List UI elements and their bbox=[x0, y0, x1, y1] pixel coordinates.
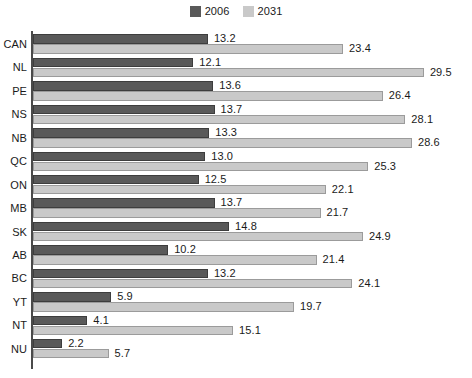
bar-pair: 10.221.4 bbox=[33, 244, 472, 267]
bar-pair: 12.522.1 bbox=[33, 174, 472, 197]
bar-2031-NS[interactable] bbox=[33, 115, 405, 124]
category-label: NL bbox=[0, 59, 27, 76]
bar-value-label: 22.1 bbox=[332, 183, 354, 196]
bar-group: MB13.721.7 bbox=[0, 197, 472, 220]
bar-track: 12.1 bbox=[33, 58, 472, 67]
bar-2006-NL[interactable] bbox=[33, 58, 193, 67]
bar-track: 12.5 bbox=[33, 175, 472, 184]
bar-value-label: 25.3 bbox=[374, 160, 396, 173]
bar-track: 26.4 bbox=[33, 91, 472, 100]
legend-entry-2031: 2031 bbox=[243, 6, 283, 17]
bar-pair: 2.25.7 bbox=[33, 338, 472, 361]
bar-2031-SK[interactable] bbox=[33, 232, 363, 241]
bar-2006-NU[interactable] bbox=[33, 339, 62, 348]
bar-track: 2.2 bbox=[33, 339, 472, 348]
bar-pair: 13.025.3 bbox=[33, 150, 472, 173]
category-label: NS bbox=[0, 106, 27, 123]
bar-track: 24.1 bbox=[33, 279, 472, 288]
bar-2006-BC[interactable] bbox=[33, 269, 208, 278]
bar-track: 13.2 bbox=[33, 269, 472, 278]
bar-group: NL12.129.5 bbox=[0, 56, 472, 79]
bar-pair: 5.919.7 bbox=[33, 291, 472, 314]
bar-value-label: 15.1 bbox=[239, 324, 261, 337]
bar-track: 5.7 bbox=[33, 349, 472, 358]
legend-swatch-icon bbox=[190, 6, 201, 17]
bar-2031-MB[interactable] bbox=[33, 208, 321, 217]
bar-track: 13.3 bbox=[33, 128, 472, 137]
bar-group: NT4.115.1 bbox=[0, 314, 472, 337]
bar-track: 22.1 bbox=[33, 185, 472, 194]
bar-2031-PE[interactable] bbox=[33, 91, 383, 100]
bar-track: 13.2 bbox=[33, 34, 472, 43]
bar-value-label: 29.5 bbox=[430, 66, 452, 79]
bar-value-label: 5.7 bbox=[115, 347, 131, 360]
bar-2006-SK[interactable] bbox=[33, 222, 229, 231]
bar-2031-AB[interactable] bbox=[33, 255, 317, 264]
bar-track: 15.1 bbox=[33, 326, 472, 335]
bar-track: 13.0 bbox=[33, 152, 472, 161]
bar-2006-MB[interactable] bbox=[33, 198, 215, 207]
bar-2031-ON[interactable] bbox=[33, 185, 326, 194]
legend-swatch-icon bbox=[243, 6, 254, 17]
bar-2006-NB[interactable] bbox=[33, 128, 209, 137]
bar-2031-NL[interactable] bbox=[33, 68, 424, 77]
bar-value-label: 28.6 bbox=[418, 136, 440, 149]
bar-pair: 13.728.1 bbox=[33, 103, 472, 126]
category-label: YT bbox=[0, 294, 27, 311]
bar-2006-NS[interactable] bbox=[33, 105, 215, 114]
bar-2006-CAN[interactable] bbox=[33, 34, 208, 43]
bar-track: 28.6 bbox=[33, 138, 472, 147]
bar-group: NB13.328.6 bbox=[0, 127, 472, 150]
bar-value-label: 19.7 bbox=[300, 300, 322, 313]
bar-group: QC13.025.3 bbox=[0, 150, 472, 173]
bar-track: 23.4 bbox=[33, 44, 472, 53]
bar-value-label: 23.4 bbox=[349, 42, 371, 55]
bar-track: 19.7 bbox=[33, 302, 472, 311]
bar-2031-YT[interactable] bbox=[33, 302, 294, 311]
bar-group: AB10.221.4 bbox=[0, 244, 472, 267]
category-label: BC bbox=[0, 270, 27, 287]
bar-2031-BC[interactable] bbox=[33, 279, 352, 288]
bar-2006-PE[interactable] bbox=[33, 81, 213, 90]
bar-2006-ON[interactable] bbox=[33, 175, 199, 184]
bar-rows: CAN13.223.4NL12.129.5PE13.626.4NS13.728.… bbox=[0, 33, 472, 361]
bar-2031-NU[interactable] bbox=[33, 349, 109, 358]
bar-group: YT5.919.7 bbox=[0, 291, 472, 314]
bar-track: 24.9 bbox=[33, 232, 472, 241]
category-label: NU bbox=[0, 341, 27, 358]
legend-label-2031: 2031 bbox=[258, 6, 283, 17]
bar-value-label: 28.1 bbox=[411, 113, 433, 126]
category-label: MB bbox=[0, 200, 27, 217]
bar-2006-YT[interactable] bbox=[33, 292, 111, 301]
bar-value-label: 24.1 bbox=[358, 277, 380, 290]
bar-2031-CAN[interactable] bbox=[33, 44, 343, 53]
bar-group: ON12.522.1 bbox=[0, 174, 472, 197]
category-label: NB bbox=[0, 130, 27, 147]
bar-track: 14.8 bbox=[33, 222, 472, 231]
bar-pair: 13.328.6 bbox=[33, 127, 472, 150]
bar-track: 28.1 bbox=[33, 115, 472, 124]
bar-2006-AB[interactable] bbox=[33, 245, 168, 254]
bar-2006-QC[interactable] bbox=[33, 152, 205, 161]
bar-pair: 14.824.9 bbox=[33, 221, 472, 244]
bar-pair: 13.721.7 bbox=[33, 197, 472, 220]
legend-entry-2006: 2006 bbox=[190, 6, 230, 17]
bar-group: CAN13.223.4 bbox=[0, 33, 472, 56]
bar-2031-NB[interactable] bbox=[33, 138, 412, 147]
bar-value-label: 24.9 bbox=[369, 230, 391, 243]
bar-pair: 13.224.1 bbox=[33, 267, 472, 290]
category-label: NT bbox=[0, 317, 27, 334]
bar-2031-QC[interactable] bbox=[33, 162, 368, 171]
bar-2006-NT[interactable] bbox=[33, 316, 87, 325]
bar-pair: 4.115.1 bbox=[33, 314, 472, 337]
bar-value-label: 26.4 bbox=[389, 89, 411, 102]
plot-area: CAN13.223.4NL12.129.5PE13.626.4NS13.728.… bbox=[0, 24, 472, 372]
bar-group: SK14.824.9 bbox=[0, 221, 472, 244]
bar-2031-NT[interactable] bbox=[33, 326, 233, 335]
chart-legend: 2006 2031 bbox=[0, 3, 472, 19]
category-label: CAN bbox=[0, 36, 27, 53]
bar-group: NU2.25.7 bbox=[0, 338, 472, 361]
legend-label-2006: 2006 bbox=[205, 6, 230, 17]
bar-group: BC13.224.1 bbox=[0, 267, 472, 290]
bar-group: PE13.626.4 bbox=[0, 80, 472, 103]
